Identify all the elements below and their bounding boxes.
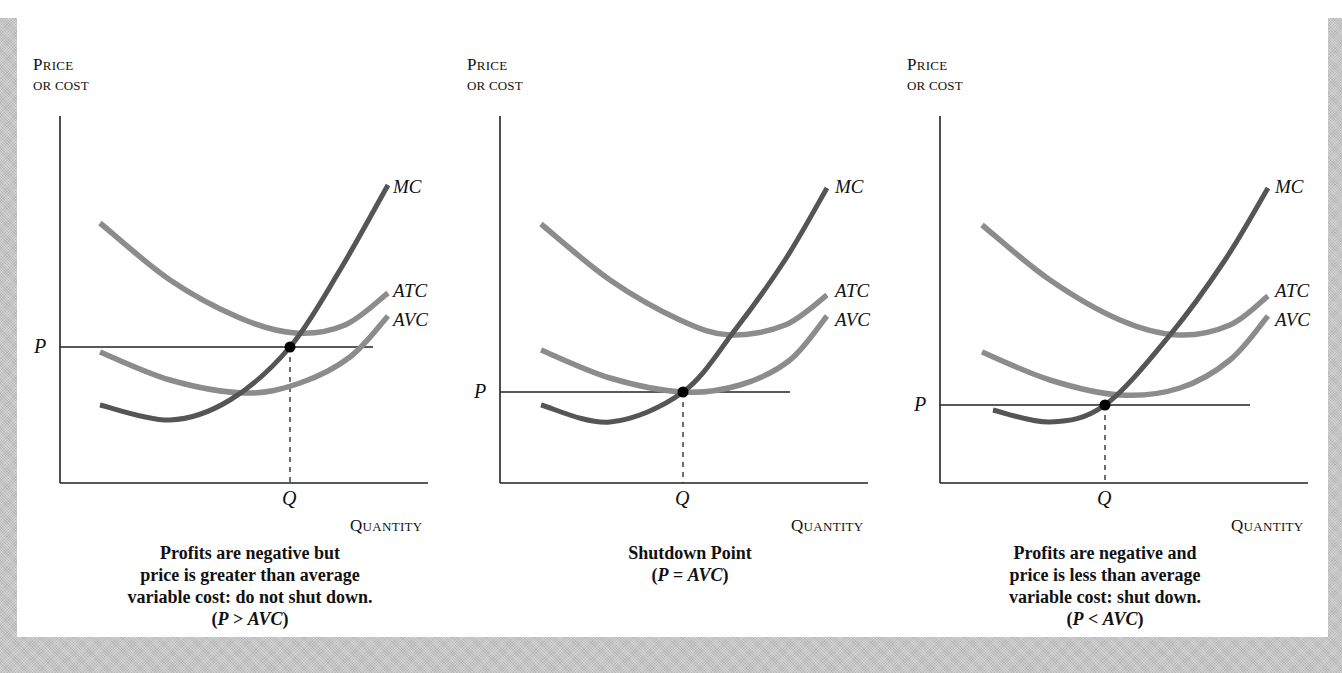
panel-3-p-label: P	[914, 393, 926, 416]
paren: )	[282, 609, 288, 629]
caption-line: Profits are negative and	[915, 542, 1295, 564]
ylabel-line2: OR COST	[467, 79, 523, 92]
ylabel-price: PRICE	[467, 55, 508, 74]
panel-2-avc-label: AVC	[835, 309, 870, 331]
panel-3-caption: Profits are negative and price is less t…	[915, 542, 1295, 630]
panel-3-xlabel: QUANTITY	[1231, 516, 1303, 536]
ylabel-line1: PRICE	[33, 56, 89, 73]
panel-2-mc-label: MC	[835, 176, 864, 198]
panel-1-caption: Profits are negative but price is greate…	[60, 542, 440, 630]
ylabel-line2: OR COST	[907, 79, 963, 92]
ylabel-line1: PRICE	[467, 56, 523, 73]
atc-curve	[982, 225, 1268, 335]
panel-1-q-label: Q	[282, 487, 296, 510]
condition-p: P	[218, 609, 229, 629]
caption-line: Profits are negative but	[60, 542, 440, 564]
panel-1-atc-label: ATC	[393, 280, 427, 302]
panel-2-q-label: Q	[675, 487, 689, 510]
panel-1-mc-label: MC	[393, 176, 422, 198]
caption-line: Shutdown Point	[500, 542, 880, 564]
panel-3-mc-label: MC	[1275, 176, 1304, 198]
panel-3-avc-label: AVC	[1275, 309, 1310, 331]
condition-operator: =	[669, 565, 688, 585]
ylabel-line1: PRICE	[907, 56, 963, 73]
caption-condition: (P > AVC)	[60, 608, 440, 630]
panel-2-plot	[500, 116, 868, 483]
condition-p: P	[1073, 609, 1084, 629]
mc-curve	[100, 185, 388, 420]
ylabel-price: PRICE	[907, 55, 948, 74]
panel-2-p-label: P	[474, 380, 486, 403]
condition-avc: AVC	[248, 609, 283, 629]
atc-curve	[100, 223, 388, 333]
condition-operator: >	[229, 609, 248, 629]
equilibrium-point	[678, 387, 689, 398]
panel-1-avc-label: AVC	[393, 309, 428, 331]
caption-line: price is greater than average	[60, 564, 440, 586]
panel-1-plot	[60, 116, 428, 483]
atc-curve	[541, 224, 827, 335]
panel-1-p-label: P	[34, 335, 46, 358]
caption-line: variable cost: shut down.	[915, 586, 1295, 608]
condition-p: P	[658, 565, 669, 585]
panel-3-q-label: Q	[1097, 487, 1111, 510]
condition-operator: <	[1084, 609, 1103, 629]
caption-line: price is less than average	[915, 564, 1295, 586]
caption-line: variable cost: do not shut down.	[60, 586, 440, 608]
condition-avc: AVC	[1103, 609, 1138, 629]
paren: )	[722, 565, 728, 585]
panel-3-ylabel: PRICE OR COST	[907, 56, 963, 92]
mc-curve	[993, 188, 1268, 422]
panel-3-plot	[940, 116, 1308, 483]
condition-avc: AVC	[688, 565, 723, 585]
ylabel-line2: OR COST	[33, 79, 89, 92]
ylabel-price: PRICE	[33, 55, 74, 74]
caption-condition: (P < AVC)	[915, 608, 1295, 630]
panel-1-xlabel: QUANTITY	[350, 516, 422, 536]
paren: )	[1137, 609, 1143, 629]
equilibrium-point	[285, 342, 296, 353]
panel-2-atc-label: ATC	[835, 280, 869, 302]
panel-3-atc-label: ATC	[1275, 280, 1309, 302]
panel-2-xlabel: QUANTITY	[791, 516, 863, 536]
panel-2-ylabel: PRICE OR COST	[467, 56, 523, 92]
panel-1-ylabel: PRICE OR COST	[33, 56, 89, 92]
equilibrium-point	[1100, 400, 1111, 411]
caption-condition: (P = AVC)	[500, 564, 880, 586]
panel-2-caption: Shutdown Point (P = AVC)	[500, 542, 880, 586]
